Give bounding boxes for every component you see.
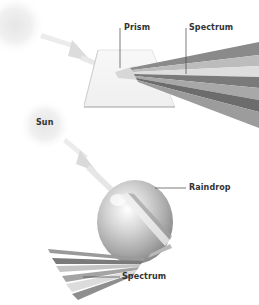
diagram-canvas: Prism Spectrum Sun Raindrop Spectrum xyxy=(0,0,259,305)
spectrum-bottom-label: Spectrum xyxy=(122,272,166,281)
sun-top-icon xyxy=(0,0,45,55)
prism-label: Prism xyxy=(124,23,150,32)
diagram-graphics xyxy=(0,0,259,305)
raindrop-label: Raindrop xyxy=(189,183,231,192)
sun-label: Sun xyxy=(36,118,53,127)
spectrum-top-label: Spectrum xyxy=(189,23,233,32)
